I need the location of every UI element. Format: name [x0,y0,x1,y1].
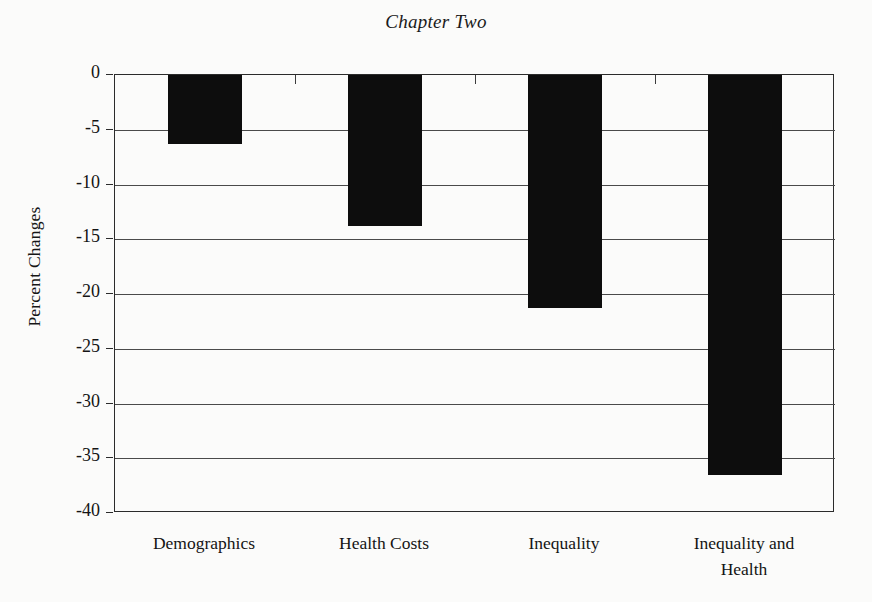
bar [168,75,242,144]
x-tick-label: Inequality [468,530,660,556]
y-tick-mark [106,457,113,458]
bar [348,75,422,226]
y-tick-label: -15 [30,226,100,247]
y-tick-label: -30 [30,391,100,412]
x-tick-label-line: Health Costs [288,530,480,556]
y-tick-label: -40 [30,500,100,521]
y-tick-label: 0 [30,62,100,83]
y-tick-mark [106,129,113,130]
y-tick-mark [106,512,113,513]
y-tick-mark [106,348,113,349]
x-tick-label-line: Inequality [468,530,660,556]
y-tick-label: -20 [30,281,100,302]
bar [708,75,782,475]
plot-area [114,74,834,512]
y-tick-label: -5 [30,117,100,138]
y-tick-label: -10 [30,172,100,193]
page-title: Chapter Two [0,11,872,33]
category-divider [655,75,656,84]
category-divider [475,75,476,84]
y-tick-label: -35 [30,445,100,466]
y-tick-label: -25 [30,336,100,357]
x-tick-label: Health Costs [288,530,480,556]
bar-chart-figure: Chapter Two Percent Changes 0-5-10-15-20… [0,0,872,602]
x-tick-label-line: Health [648,556,840,582]
x-tick-label: Demographics [108,530,300,556]
y-tick-mark [106,184,113,185]
x-tick-label-line: Demographics [108,530,300,556]
bar [528,75,602,308]
x-tick-label-line: Inequality and [648,530,840,556]
x-tick-label: Inequality andHealth [648,530,840,582]
y-tick-mark [106,74,113,75]
category-divider [295,75,296,84]
y-tick-mark [106,238,113,239]
y-tick-mark [106,403,113,404]
y-tick-mark [106,293,113,294]
